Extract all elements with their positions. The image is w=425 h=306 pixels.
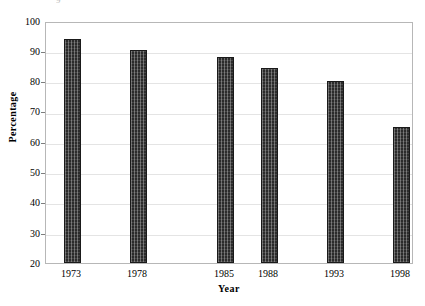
y-tick-label-50: 50 xyxy=(6,168,40,178)
y-tick-label-70: 70 xyxy=(6,107,40,117)
y-tick-label-60: 60 xyxy=(6,138,40,148)
y-tick-label-40: 40 xyxy=(6,198,40,208)
bar-1985 xyxy=(217,57,234,263)
top-text-artifact: 9 xyxy=(56,0,74,5)
x-tick-label-1998: 1998 xyxy=(378,268,422,279)
bar-chart: 9 Percentage 100 90 80 70 60 50 40 30 20… xyxy=(0,0,425,306)
bar-1973 xyxy=(64,39,81,263)
x-tick-label-1978: 1978 xyxy=(115,268,159,279)
bar-1993 xyxy=(327,81,344,263)
bar-1998 xyxy=(393,127,410,263)
y-tick-label-80: 80 xyxy=(6,77,40,87)
y-tick-label-100: 100 xyxy=(6,17,40,27)
x-tick-label-1985: 1985 xyxy=(202,268,246,279)
y-tick-label-20: 20 xyxy=(6,259,40,269)
x-tick-label-1993: 1993 xyxy=(312,268,356,279)
x-tick-label-1973: 1973 xyxy=(49,268,93,279)
x-tick-label-1988: 1988 xyxy=(246,268,290,279)
gridline-90 xyxy=(46,53,412,54)
x-axis-title: Year xyxy=(45,283,413,294)
bar-1978 xyxy=(130,50,147,263)
bar-1988 xyxy=(261,68,278,263)
y-tick-label-90: 90 xyxy=(6,47,40,57)
y-tick-label-30: 30 xyxy=(6,229,40,239)
plot-area xyxy=(45,22,413,264)
